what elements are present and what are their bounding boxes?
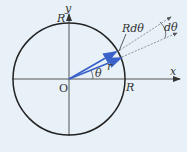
arc-length-label: Rdθ bbox=[121, 22, 144, 35]
r-vector-label: r bbox=[107, 60, 113, 73]
x-axis-label: x bbox=[170, 65, 177, 78]
theta-arc bbox=[91, 70, 93, 79]
dashed-ray-lower bbox=[122, 33, 177, 57]
radius-label-right: R bbox=[125, 81, 134, 94]
polar-diagram: y x O R R Rdθ θ r dθ bbox=[0, 0, 187, 152]
theta-label: θ bbox=[95, 67, 102, 80]
arc-pointer bbox=[119, 34, 126, 51]
origin-label: O bbox=[59, 82, 68, 95]
radius-label-top: R bbox=[56, 12, 65, 25]
dtheta-label: dθ bbox=[164, 21, 178, 34]
